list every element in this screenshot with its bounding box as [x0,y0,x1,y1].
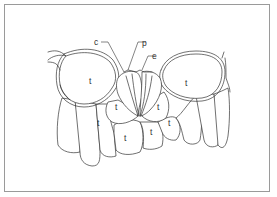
callout-label-p: p [142,38,147,48]
callout-label-e: e [152,51,157,61]
left-large-cell [48,49,119,107]
diagram-canvas: c p e t t t t t t t t [0,0,277,197]
callout-label-c: c [94,37,99,47]
